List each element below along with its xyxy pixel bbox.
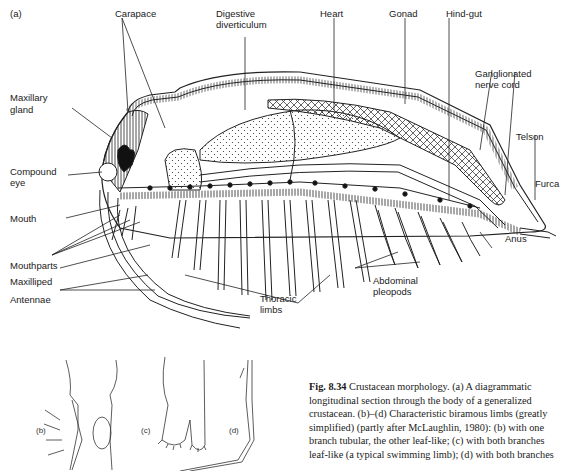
label-thoracic-2: limbs <box>260 304 282 315</box>
panel-label-a: (a) <box>10 8 22 19</box>
limb-b <box>44 360 117 470</box>
label-anus: Anus <box>505 233 527 244</box>
label-maxillary-2: gland <box>10 104 33 115</box>
label-furca: Furca <box>535 178 559 189</box>
label-compound-2: eye <box>10 177 25 188</box>
label-hindgut: Hind-gut <box>446 8 482 19</box>
label-compound-1: Compound <box>10 166 56 177</box>
label-heart: Heart <box>320 8 343 19</box>
label-digestive-1: Digestive <box>216 8 255 19</box>
label-ganglionated-1: Ganglionated <box>475 68 532 79</box>
label-telson: Telson <box>516 131 543 142</box>
label-mouthparts: Mouthparts <box>10 260 58 271</box>
label-maxillary-1: Maxillary <box>10 92 47 103</box>
caption-text: Crustacean morphology. (a) A diagrammati… <box>309 381 554 460</box>
panel-label-c: (c) <box>141 426 150 435</box>
limb-d <box>180 360 254 471</box>
panel-label-b: (b) <box>36 426 46 435</box>
label-digestive-2: diverticulum <box>216 19 267 30</box>
label-carapace: Carapace <box>115 8 156 19</box>
label-gonad: Gonad <box>389 8 418 19</box>
limb-c <box>158 357 206 452</box>
label-thoracic-1: Thoracic <box>260 293 296 304</box>
figure-number: Fig. 8.34 <box>309 381 346 392</box>
label-maxilliped: Maxilliped <box>10 276 52 287</box>
figure-caption: Fig. 8.34 Crustacean morphology. (a) A d… <box>309 380 561 462</box>
panel-label-d: (d) <box>229 426 239 435</box>
label-antennae: Antennae <box>10 294 51 305</box>
label-abdominal-2: pleopods <box>373 286 412 297</box>
label-abdominal-1: Abdominal <box>373 275 418 286</box>
label-mouth: Mouth <box>10 213 36 224</box>
body-section <box>99 72 556 328</box>
label-ganglionated-2: nerve cord <box>475 79 520 90</box>
